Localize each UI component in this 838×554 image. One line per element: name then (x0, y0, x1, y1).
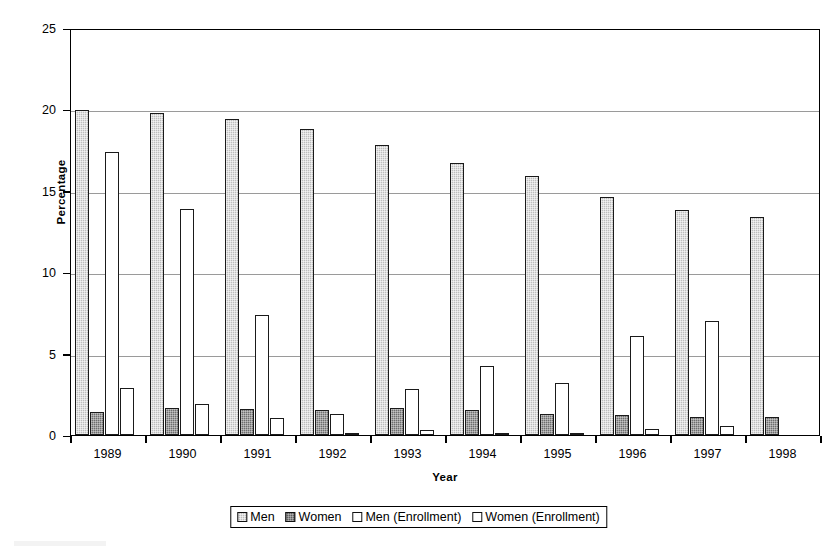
bar (255, 315, 269, 435)
x-axis-title: Year (70, 471, 820, 483)
x-tick-label: 1992 (298, 447, 368, 461)
bar-group (296, 30, 371, 435)
legend-item: Men (237, 510, 274, 524)
y-tick-mark (63, 354, 70, 356)
x-tick-label: 1989 (73, 447, 143, 461)
bar (690, 417, 704, 435)
bar (195, 404, 209, 435)
legend-item: Women (Enrollment) (472, 510, 599, 524)
bar (600, 197, 614, 436)
bar (240, 409, 254, 435)
bar-group (221, 30, 296, 435)
legend-item: Women (286, 510, 342, 524)
bar (225, 119, 239, 435)
bar (300, 129, 314, 435)
bar (405, 389, 419, 435)
x-tick-label: 1998 (748, 447, 818, 461)
y-tick-label: 15 (10, 186, 56, 198)
y-tick-mark (63, 273, 70, 275)
y-tick-mark (63, 191, 70, 193)
bar-group (596, 30, 671, 435)
legend-label: Women (299, 510, 342, 524)
bar (555, 383, 569, 435)
plot-area (70, 29, 820, 436)
legend-swatch-men (237, 512, 247, 522)
legend-item: Men (Enrollment) (352, 510, 461, 524)
x-tick-mark (220, 436, 222, 443)
scan-artifact (14, 541, 106, 546)
bar (465, 410, 479, 435)
bar (750, 217, 764, 435)
bar (675, 210, 689, 435)
chart-legend: MenWomenMen (Enrollment)Women (Enrollmen… (230, 506, 607, 528)
bar (75, 110, 89, 435)
y-tick-label: 10 (10, 267, 56, 279)
bar (345, 433, 359, 435)
bar-group (671, 30, 746, 435)
bar (105, 152, 119, 435)
bar (270, 418, 284, 435)
y-tick-label: 5 (10, 349, 56, 361)
x-tick-mark (520, 436, 522, 443)
x-tick-label: 1995 (523, 447, 593, 461)
bar (480, 366, 494, 435)
bar (630, 336, 644, 435)
bar-group (521, 30, 596, 435)
legend-swatch-women-enroll (472, 512, 482, 522)
bar-group (371, 30, 446, 435)
bar (420, 430, 434, 435)
y-tick-mark (63, 110, 70, 112)
bar (765, 417, 779, 435)
legend-label: Men (Enrollment) (365, 510, 461, 524)
y-tick-label: 0 (10, 430, 56, 442)
y-tick-label: 20 (10, 104, 56, 116)
x-tick-label: 1997 (673, 447, 743, 461)
bar-group (746, 30, 821, 435)
x-tick-mark (745, 436, 747, 443)
legend-swatch-men-enroll (352, 512, 362, 522)
x-tick-label: 1990 (148, 447, 218, 461)
bar (615, 415, 629, 435)
bar (720, 426, 734, 435)
x-tick-mark (145, 436, 147, 443)
bar (525, 176, 539, 435)
y-tick-mark (63, 29, 70, 31)
bar (540, 414, 554, 435)
bar (570, 433, 584, 435)
bar-group (71, 30, 146, 435)
y-tick-mark (63, 436, 70, 438)
x-tick-mark (70, 436, 72, 443)
x-tick-label: 1991 (223, 447, 293, 461)
legend-swatch-women (286, 512, 296, 522)
bar (180, 209, 194, 435)
bar (165, 408, 179, 435)
x-tick-mark (670, 436, 672, 443)
x-tick-label: 1996 (598, 447, 668, 461)
x-tick-label: 1994 (448, 447, 518, 461)
bar (90, 412, 104, 435)
bar-group (146, 30, 221, 435)
bar (375, 145, 389, 435)
bar (150, 113, 164, 435)
y-tick-label: 25 (10, 23, 56, 35)
bar (450, 163, 464, 435)
bar (705, 321, 719, 435)
bar-group (446, 30, 521, 435)
bar (390, 408, 404, 435)
legend-label: Men (250, 510, 274, 524)
x-tick-mark (295, 436, 297, 443)
bar (120, 388, 134, 435)
x-tick-mark (445, 436, 447, 443)
bar (315, 410, 329, 435)
x-tick-label: 1993 (373, 447, 443, 461)
bar (645, 429, 659, 435)
legend-label: Women (Enrollment) (485, 510, 599, 524)
bar-chart: Percentage 0510152025 198919901991199219… (0, 0, 838, 554)
x-tick-mark (820, 436, 822, 443)
x-tick-mark (595, 436, 597, 443)
x-tick-mark (370, 436, 372, 443)
bar (495, 433, 509, 435)
bar (330, 414, 344, 435)
